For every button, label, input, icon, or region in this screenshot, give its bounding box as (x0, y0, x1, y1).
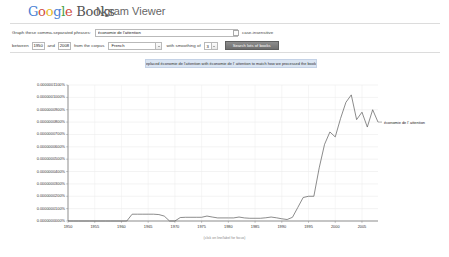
chart-plot-svg[interactable] (0, 78, 449, 248)
y-axis-tick-label: 0.0000000100% (37, 207, 65, 211)
series-lines (68, 95, 382, 221)
search-button[interactable]: Search lots of books (225, 41, 279, 50)
corpus-chevron-down-icon[interactable] (156, 42, 162, 50)
smoothing-select[interactable]: 3 (204, 42, 212, 50)
y-axis-tick-label: 0.0000000500% (37, 157, 65, 161)
phrases-input[interactable] (95, 29, 234, 37)
y-axis-tick-label: 0.0000000800% (37, 120, 65, 124)
ngram-viewer-page: Google Books Ngram Viewer Graph these co… (0, 0, 449, 257)
page-title: Ngram Viewer (96, 5, 166, 17)
phrases-label: Graph these comma-separated phrases: (12, 28, 91, 37)
x-axis-tick-label: 1960 (111, 225, 131, 229)
x-axis-tick-label: 1990 (272, 225, 292, 229)
corpus-label: from the corpus (74, 41, 105, 50)
axis-lines (66, 85, 378, 223)
chart-caption: (click on line/label for focus) (0, 236, 449, 240)
smoothing-chevron-down-icon[interactable] (212, 42, 218, 50)
x-axis-tick-label: 1980 (218, 225, 238, 229)
x-axis-tick-label: 1985 (245, 225, 265, 229)
y-axis-tick-label: 0.0000000900% (37, 108, 65, 112)
x-axis-tick-label: 1975 (192, 225, 212, 229)
x-axis-tick-label: 1950 (58, 225, 78, 229)
y-axis-tick-label: 0.0000000400% (37, 170, 65, 174)
x-axis-tick-label: 1955 (85, 225, 105, 229)
y-axis-tick-label: 0.0000001000% (37, 95, 65, 99)
case-insensitive-checkbox[interactable] (233, 30, 239, 36)
x-axis-tick-label: 2005 (352, 225, 372, 229)
divider-top (10, 23, 440, 24)
replacement-notice: Replaced économie de l'attention with éc… (145, 59, 317, 68)
x-axis-tick-label: 1995 (299, 225, 319, 229)
between-label: between (12, 41, 29, 50)
corpus-select[interactable]: French (108, 42, 156, 50)
range-row: between and from the corpus French with … (12, 40, 279, 51)
x-axis-tick-label: 2000 (325, 225, 345, 229)
grid-lines (68, 85, 378, 221)
y-axis-tick-label: 0.0000000300% (37, 182, 65, 186)
x-axis-tick-label: 1965 (138, 225, 158, 229)
ngram-chart[interactable]: 0.0000000000%0.0000000100%0.0000000200%0… (0, 78, 449, 248)
y-axis-tick-label: 0.0000000000% (37, 219, 65, 223)
series-label[interactable]: économie de l' attention (384, 120, 425, 125)
x-axis-tick-label: 1970 (165, 225, 185, 229)
series-line[interactable] (68, 95, 378, 221)
y-axis-tick-label: 0.0000000200% (37, 194, 65, 198)
case-insensitive-label: case-insensitive (242, 28, 273, 37)
y-axis-tick-label: 0.0000000700% (37, 132, 65, 136)
start-year-input[interactable] (32, 42, 45, 50)
smoothing-label: with smoothing of (166, 41, 200, 50)
phrases-row: Graph these comma-separated phrases: (12, 27, 238, 38)
end-year-input[interactable] (58, 42, 71, 50)
and-label: and (48, 41, 55, 50)
masthead: Google Books Ngram Viewer (0, 0, 449, 22)
divider-bottom (10, 52, 440, 53)
y-axis-tick-label: 0.0000001100% (37, 83, 65, 87)
case-insensitive-control[interactable]: case-insensitive (233, 28, 273, 37)
y-axis-tick-label: 0.0000000600% (37, 145, 65, 149)
